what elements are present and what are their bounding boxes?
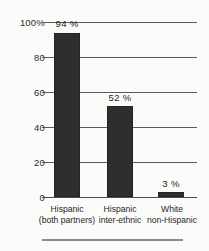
bar-hispanic-both-partners [54,33,80,198]
bar-value-label-3: 3 % [151,179,191,189]
plot-area: 100% 80 60 40 20 0 94 % 52 % 3 % Hispani… [0,0,209,251]
category-label-white-non-hispanic: White non-Hispanic [137,204,207,226]
y-tick-label-40: 40 [9,123,45,133]
category-label-line1: Hispanic [51,204,84,214]
y-tick-label-20: 20 [9,158,45,168]
bar-chart: 100% 80 60 40 20 0 94 % 52 % 3 % Hispani… [0,0,209,251]
y-tick-label-0: 0 [9,193,45,203]
y-tick-label-100: 100% [9,18,45,28]
footer-rule [42,239,183,241]
category-label-line1: White [161,204,183,214]
category-label-line2: non-Hispanic [137,215,207,226]
bar-value-label-2: 52 % [100,93,140,103]
y-tick-label-60: 60 [9,88,45,98]
bar-white-non-hispanic [158,192,184,197]
y-tick-label-80: 80 [9,53,45,63]
bar-value-label-1: 94 % [47,19,87,29]
axis-baseline [42,197,197,198]
category-label-line1: Hispanic [104,204,137,214]
bar-hispanic-inter-ethnic [107,106,133,197]
